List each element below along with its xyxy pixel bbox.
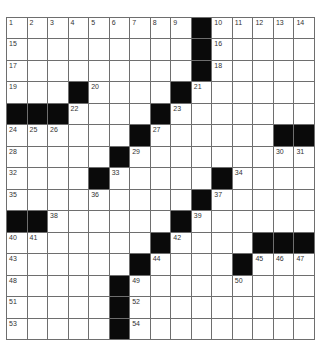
crossword-cell[interactable] (68, 318, 89, 339)
crossword-cell[interactable] (191, 146, 212, 167)
crossword-cell[interactable]: 2 (27, 17, 48, 38)
crossword-cell[interactable]: 30 (273, 146, 294, 167)
crossword-cell[interactable] (27, 60, 48, 81)
crossword-cell[interactable] (293, 60, 314, 81)
crossword-cell[interactable]: 51 (6, 296, 27, 317)
crossword-cell[interactable] (27, 81, 48, 102)
crossword-cell[interactable] (88, 318, 109, 339)
crossword-cell[interactable] (252, 81, 273, 102)
crossword-cell[interactable]: 35 (6, 189, 27, 210)
crossword-cell[interactable] (293, 103, 314, 124)
crossword-cell[interactable] (27, 318, 48, 339)
crossword-cell[interactable] (191, 275, 212, 296)
crossword-cell[interactable]: 5 (88, 17, 109, 38)
crossword-cell[interactable] (293, 81, 314, 102)
crossword-cell[interactable] (109, 253, 130, 274)
crossword-cell[interactable]: 14 (293, 17, 314, 38)
crossword-cell[interactable]: 22 (68, 103, 89, 124)
crossword-cell[interactable] (252, 103, 273, 124)
crossword-cell[interactable] (47, 318, 68, 339)
crossword-cell[interactable]: 36 (88, 189, 109, 210)
crossword-cell[interactable]: 28 (6, 146, 27, 167)
crossword-cell[interactable] (232, 189, 253, 210)
crossword-cell[interactable] (273, 38, 294, 59)
crossword-cell[interactable] (47, 296, 68, 317)
crossword-cell[interactable] (170, 275, 191, 296)
crossword-cell[interactable]: 49 (129, 275, 150, 296)
crossword-cell[interactable]: 26 (47, 124, 68, 145)
crossword-cell[interactable] (191, 253, 212, 274)
crossword-cell[interactable] (232, 38, 253, 59)
crossword-cell[interactable] (150, 146, 171, 167)
crossword-cell[interactable]: 47 (293, 253, 314, 274)
crossword-cell[interactable] (293, 318, 314, 339)
crossword-cell[interactable] (109, 189, 130, 210)
crossword-cell[interactable]: 21 (191, 81, 212, 102)
crossword-cell[interactable] (211, 124, 232, 145)
crossword-cell[interactable] (47, 146, 68, 167)
crossword-cell[interactable] (47, 81, 68, 102)
crossword-cell[interactable] (211, 275, 232, 296)
crossword-cell[interactable] (252, 318, 273, 339)
crossword-cell[interactable] (293, 275, 314, 296)
crossword-cell[interactable] (252, 296, 273, 317)
crossword-cell[interactable] (88, 146, 109, 167)
crossword-cell[interactable] (170, 60, 191, 81)
crossword-cell[interactable]: 46 (273, 253, 294, 274)
crossword-cell[interactable] (88, 253, 109, 274)
crossword-cell[interactable]: 50 (232, 275, 253, 296)
crossword-cell[interactable] (150, 81, 171, 102)
crossword-cell[interactable] (252, 210, 273, 231)
crossword-cell[interactable] (170, 167, 191, 188)
crossword-cell[interactable] (129, 103, 150, 124)
crossword-cell[interactable]: 27 (150, 124, 171, 145)
crossword-cell[interactable] (68, 296, 89, 317)
crossword-cell[interactable]: 39 (191, 210, 212, 231)
crossword-cell[interactable] (273, 167, 294, 188)
crossword-cell[interactable] (211, 81, 232, 102)
crossword-cell[interactable] (211, 146, 232, 167)
crossword-cell[interactable]: 53 (6, 318, 27, 339)
crossword-cell[interactable]: 34 (232, 167, 253, 188)
crossword-cell[interactable]: 24 (6, 124, 27, 145)
crossword-cell[interactable] (129, 210, 150, 231)
crossword-cell[interactable]: 25 (27, 124, 48, 145)
crossword-cell[interactable]: 16 (211, 38, 232, 59)
crossword-cell[interactable] (68, 189, 89, 210)
crossword-cell[interactable]: 37 (211, 189, 232, 210)
crossword-cell[interactable] (88, 296, 109, 317)
crossword-cell[interactable]: 18 (211, 60, 232, 81)
crossword-cell[interactable] (232, 81, 253, 102)
crossword-cell[interactable] (88, 210, 109, 231)
crossword-cell[interactable] (211, 253, 232, 274)
crossword-cell[interactable] (273, 81, 294, 102)
crossword-cell[interactable] (129, 81, 150, 102)
crossword-cell[interactable] (293, 210, 314, 231)
crossword-cell[interactable] (150, 189, 171, 210)
crossword-cell[interactable] (293, 38, 314, 59)
crossword-cell[interactable] (211, 318, 232, 339)
crossword-cell[interactable] (232, 124, 253, 145)
crossword-cell[interactable] (211, 103, 232, 124)
crossword-cell[interactable]: 7 (129, 17, 150, 38)
crossword-cell[interactable] (170, 38, 191, 59)
crossword-cell[interactable] (191, 296, 212, 317)
crossword-cell[interactable] (191, 103, 212, 124)
crossword-cell[interactable] (88, 232, 109, 253)
crossword-cell[interactable]: 1 (6, 17, 27, 38)
crossword-cell[interactable] (211, 232, 232, 253)
crossword-cell[interactable] (88, 103, 109, 124)
crossword-cell[interactable]: 20 (88, 81, 109, 102)
crossword-cell[interactable]: 52 (129, 296, 150, 317)
crossword-cell[interactable] (170, 189, 191, 210)
crossword-cell[interactable] (252, 275, 273, 296)
crossword-cell[interactable]: 9 (170, 17, 191, 38)
crossword-cell[interactable]: 48 (6, 275, 27, 296)
crossword-cell[interactable]: 17 (6, 60, 27, 81)
crossword-cell[interactable] (68, 60, 89, 81)
crossword-cell[interactable] (252, 167, 273, 188)
crossword-cell[interactable] (27, 275, 48, 296)
crossword-cell[interactable]: 12 (252, 17, 273, 38)
crossword-cell[interactable] (211, 296, 232, 317)
crossword-cell[interactable] (27, 146, 48, 167)
